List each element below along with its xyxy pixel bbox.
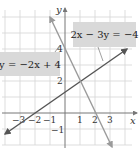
x-tick-label: 3 (107, 115, 113, 125)
x-tick-label: −3 (12, 115, 26, 125)
x-tick-label: 1 (77, 115, 83, 125)
equation-label-shallow-line: 2x − 3y = −4 (73, 22, 136, 47)
y-tick-label: 2 (57, 76, 63, 86)
equation-label-steep-line: y = −2x + 4 (0, 52, 60, 76)
y-axis-label: y (55, 4, 62, 15)
y-tick-label: −1 (51, 125, 64, 135)
x-axis-label: x (130, 115, 136, 126)
x-tick-label: −1 (43, 115, 56, 125)
